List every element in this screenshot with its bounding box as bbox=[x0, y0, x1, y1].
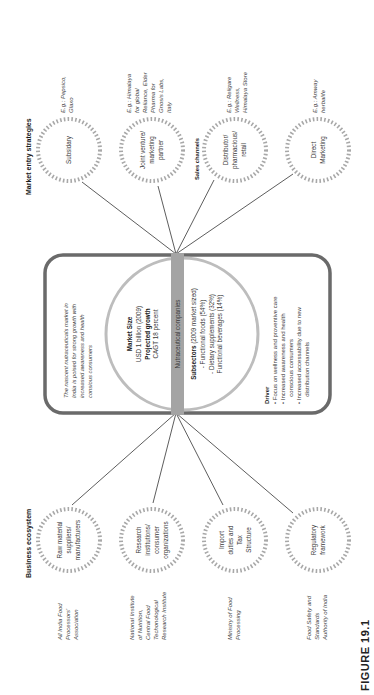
connector-direct-marketing bbox=[176, 174, 293, 254]
svg-text:of Nutrition,: of Nutrition, bbox=[137, 609, 143, 640]
svg-text:for global: for global bbox=[134, 88, 140, 113]
figure-label: FIGURE 19.1 bbox=[359, 619, 371, 691]
svg-text:Pharma for: Pharma for bbox=[150, 82, 156, 113]
svg-text:- Dietary supplements (32%): - Dietary supplements (32%) bbox=[208, 294, 216, 374]
node-import-line4: Structure bbox=[245, 527, 252, 553]
svg-text:Himalaya Store: Himalaya Store bbox=[242, 71, 248, 113]
node-raw-material-line3: manufacturers bbox=[74, 520, 81, 560]
svg-text:herbalife: herbalife bbox=[320, 89, 326, 113]
svg-text:Italy: Italy bbox=[166, 101, 172, 113]
connector-joint-venture bbox=[158, 186, 176, 254]
business-ecosystem-heading: Business ecosystem bbox=[25, 509, 33, 578]
example-subsidiary-line2: Glaxo bbox=[68, 97, 74, 113]
svg-text:- Functional foods (54%): - Functional foods (54%) bbox=[199, 300, 207, 369]
circle-direct-marketing bbox=[287, 119, 349, 181]
connector-research bbox=[153, 413, 176, 503]
node-research-line3: consumer bbox=[153, 526, 160, 554]
sales-channels-heading: Sales channels bbox=[194, 138, 200, 180]
market-size-value: USD 1 billion (2009) bbox=[135, 306, 143, 362]
connector-import bbox=[176, 413, 223, 505]
svg-text:Association: Association bbox=[73, 609, 79, 641]
nutraceutical-market-diagram: Nutraceutical companies The nascent nutr… bbox=[0, 0, 374, 695]
growth-value: CAGT 18 percent bbox=[152, 309, 160, 358]
node-direct-marketing-line2: Marketing bbox=[319, 136, 327, 164]
driver-heading: Driver bbox=[264, 386, 270, 404]
svg-text:Processors': Processors' bbox=[65, 608, 71, 640]
market-entry-heading: Market entry strategies bbox=[25, 118, 33, 195]
growth-label: Projected growth bbox=[144, 308, 152, 360]
node-research-line2: institutions/ bbox=[144, 524, 151, 556]
circle-regulatory bbox=[287, 509, 349, 571]
svg-text:E.g.: Amway: E.g.: Amway bbox=[312, 79, 318, 113]
svg-text:• Focus on wellness and proven: • Focus on wellness and proventive care bbox=[272, 296, 278, 404]
node-distributor-line2: pharmacious/ bbox=[231, 131, 239, 169]
svg-text:Central Food: Central Food bbox=[145, 605, 151, 640]
connector-distributor bbox=[176, 180, 214, 254]
svg-text:conscious consumers: conscious consumers bbox=[288, 339, 294, 400]
circle-import bbox=[204, 509, 266, 571]
svg-text:Reliance, Elder: Reliance, Elder bbox=[142, 71, 148, 113]
node-raw-material-line1: Raw material bbox=[56, 522, 63, 559]
node-research-line4: organizations bbox=[162, 521, 170, 558]
svg-text:Food Safety and: Food Safety and bbox=[306, 595, 312, 640]
svg-text:Processing: Processing bbox=[235, 610, 241, 640]
connector-regulatory bbox=[176, 413, 293, 513]
node-distributor-line1: Distributor/ bbox=[222, 135, 229, 166]
example-subsidiary-line1: E.g.: Pepsico, bbox=[60, 76, 66, 113]
ecosystem-circles bbox=[38, 509, 349, 571]
node-direct-marketing-line1: Direct bbox=[310, 142, 317, 159]
svg-text:E.g.: Himalaya: E.g.: Himalaya bbox=[126, 73, 132, 113]
svg-text:India is poised for strong gro: India is poised for strong growth with bbox=[71, 304, 77, 398]
node-joint-venture-line2: marketing bbox=[148, 136, 156, 164]
svg-text:National Institute: National Institute bbox=[129, 595, 135, 640]
connector-subsidiary bbox=[82, 182, 176, 254]
svg-text:All India Food: All India Food bbox=[57, 603, 63, 641]
svg-text:increased awareness and health: increased awareness and health bbox=[79, 315, 85, 398]
svg-text:Standards: Standards bbox=[314, 613, 320, 640]
node-research-line1: Research bbox=[135, 526, 142, 553]
subsectors-heading: Subsectors (2009 market sized) bbox=[190, 288, 198, 380]
svg-text:Research Institute: Research Institute bbox=[161, 591, 167, 640]
svg-text:Wellness,: Wellness, bbox=[234, 87, 240, 113]
svg-text:Ministry of Food: Ministry of Food bbox=[227, 597, 233, 640]
svg-text:distribution channels: distribution channels bbox=[304, 342, 310, 400]
node-regulatory-line2: framework bbox=[319, 524, 326, 554]
svg-text:Gnosis Labs,: Gnosis Labs, bbox=[158, 78, 164, 113]
node-distributor-line3: retail bbox=[240, 143, 247, 157]
svg-text:E.g.: Religare: E.g.: Religare bbox=[226, 76, 232, 113]
node-raw-material-line2: suppliers/ bbox=[65, 526, 73, 553]
svg-text:• Increased awareness and heal: • Increased awareness and health bbox=[280, 314, 286, 405]
market-size-label: Market Size bbox=[126, 316, 133, 351]
svg-text:The nascent nutraceuticals mar: The nascent nutraceuticals market in bbox=[63, 303, 69, 398]
node-joint-venture-line1: Joint venture/ bbox=[139, 131, 146, 169]
svg-text:Techonological: Techonological bbox=[153, 600, 159, 640]
node-regulatory-line1: Regulatory bbox=[310, 524, 318, 555]
connector-raw-material bbox=[72, 413, 176, 505]
node-joint-venture-line3: partner bbox=[157, 140, 165, 160]
svg-text:• Increased accessability due: • Increased accessability due to new bbox=[296, 307, 302, 404]
svg-text:Authority of India: Authority of India bbox=[322, 594, 328, 641]
node-import-line1: Import bbox=[218, 531, 226, 549]
nutraceutical-bar-label: Nutraceutical companies bbox=[174, 300, 182, 369]
node-import-line3: Tax bbox=[236, 534, 243, 545]
node-subsidiary: Subsidary bbox=[65, 135, 73, 164]
svg-text:consious consumers: consious consumers bbox=[87, 345, 93, 398]
circle-research bbox=[121, 509, 183, 571]
svg-text:Functional beverages (14%): Functional beverages (14%) bbox=[216, 295, 224, 374]
node-import-line2: duties and bbox=[227, 525, 234, 555]
